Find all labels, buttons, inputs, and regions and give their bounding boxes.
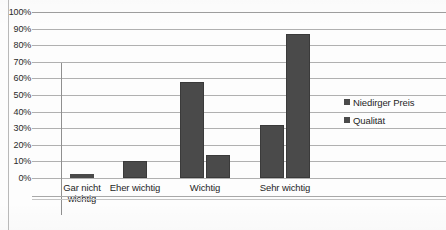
y-tick-label-70: 70% bbox=[1, 57, 31, 67]
category-label-3: Sehr wichtig bbox=[240, 182, 330, 193]
y-tick-label-80: 80% bbox=[1, 40, 31, 50]
gridline-60 bbox=[32, 78, 446, 79]
bar-chart: 100%90%80%70%60%50%40%30%20%10%0% Gar ni… bbox=[0, 0, 446, 230]
y-axis-tick-labels: 100%90%80%70%60%50%40%30%20%10%0% bbox=[0, 0, 31, 230]
bar-3-1 bbox=[286, 34, 310, 178]
category-label-line1: Sehr wichtig bbox=[240, 182, 330, 193]
y-tick-label-40: 40% bbox=[1, 107, 31, 117]
bar-2-1 bbox=[206, 155, 230, 178]
gridline-20 bbox=[32, 145, 446, 146]
x-axis-baseline-rule bbox=[32, 196, 446, 197]
category-label-line1: Wichtig bbox=[160, 182, 250, 193]
legend-label: Qualität bbox=[353, 115, 385, 126]
gridline-0 bbox=[32, 178, 446, 179]
bar-2-0 bbox=[180, 82, 204, 178]
legend-swatch-icon bbox=[344, 117, 350, 123]
gridline-80 bbox=[32, 45, 446, 46]
y-tick-label-20: 20% bbox=[1, 140, 31, 150]
legend-label: Niedirger Preis bbox=[353, 97, 414, 108]
y-tick-label-90: 90% bbox=[1, 24, 31, 34]
bar-0-0 bbox=[70, 174, 94, 178]
y-tick-label-60: 60% bbox=[1, 73, 31, 83]
bar-1-0 bbox=[123, 161, 147, 178]
x-axis-baseline-rule-shadow bbox=[32, 199, 446, 200]
gridline-10 bbox=[32, 161, 446, 162]
category-label-2: Wichtig bbox=[160, 182, 250, 193]
gridline-70 bbox=[32, 62, 446, 63]
bar-3-0 bbox=[260, 125, 284, 178]
y-tick-label-30: 30% bbox=[1, 123, 31, 133]
y-tick-label-50: 50% bbox=[1, 90, 31, 100]
gridline-90 bbox=[32, 29, 446, 30]
legend-item-0[interactable]: Niedirger Preis bbox=[344, 93, 446, 111]
legend: Niedirger PreisQualität bbox=[344, 93, 446, 129]
y-tick-label-10: 10% bbox=[1, 156, 31, 166]
y-tick-label-100: 100% bbox=[1, 7, 31, 17]
legend-item-1[interactable]: Qualität bbox=[344, 111, 446, 129]
legend-swatch-icon bbox=[344, 99, 350, 105]
gridline-100 bbox=[32, 12, 446, 13]
y-tick-label-0: 0% bbox=[1, 173, 31, 183]
